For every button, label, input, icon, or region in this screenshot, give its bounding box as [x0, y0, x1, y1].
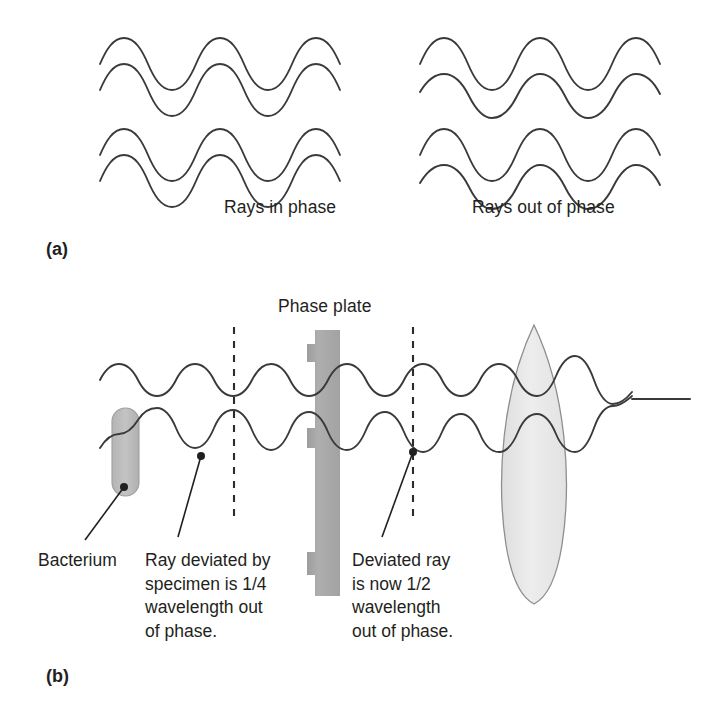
half-wave-leader-line — [382, 452, 413, 537]
caption-line: is now 1/2 — [352, 573, 502, 597]
phase-contrast-figure: Rays in phase Rays out of phase (a) Phas… — [0, 0, 704, 708]
caption-line: out of phase. — [352, 620, 502, 644]
half-wave-caption: Deviated ray is now 1/2 wavelength out o… — [352, 549, 502, 643]
caption-line: of phase. — [145, 620, 305, 644]
caption-line: Ray deviated by — [145, 549, 305, 573]
bacterium-leader-line — [85, 487, 124, 540]
caption-line: specimen is 1/4 — [145, 573, 305, 597]
wave-line — [420, 38, 660, 90]
panel-a-right-wave-group — [420, 38, 660, 209]
panel-a-label: (a) — [46, 239, 68, 260]
quarter-wave-caption: Ray deviated by specimen is 1/4 waveleng… — [145, 549, 305, 643]
wave-line — [420, 74, 660, 118]
caption-line: wavelength — [352, 596, 502, 620]
bacterium-label: Bacterium — [38, 549, 117, 573]
caption-line: Deviated ray — [352, 549, 502, 573]
wave-line — [420, 129, 660, 181]
rays-out-of-phase-label: Rays out of phase — [472, 197, 615, 218]
bacterium-shape — [112, 408, 139, 496]
caption-line: wavelength out — [145, 596, 305, 620]
rays-in-phase-label: Rays in phase — [224, 197, 336, 218]
wave-line — [100, 64, 340, 116]
phase-plate-label: Phase plate — [278, 296, 372, 317]
panel-b-label: (b) — [46, 666, 69, 687]
panel-a-left-wave-group — [100, 38, 340, 207]
lens-shape — [502, 325, 567, 604]
quarter-wave-leader-line — [178, 456, 201, 537]
